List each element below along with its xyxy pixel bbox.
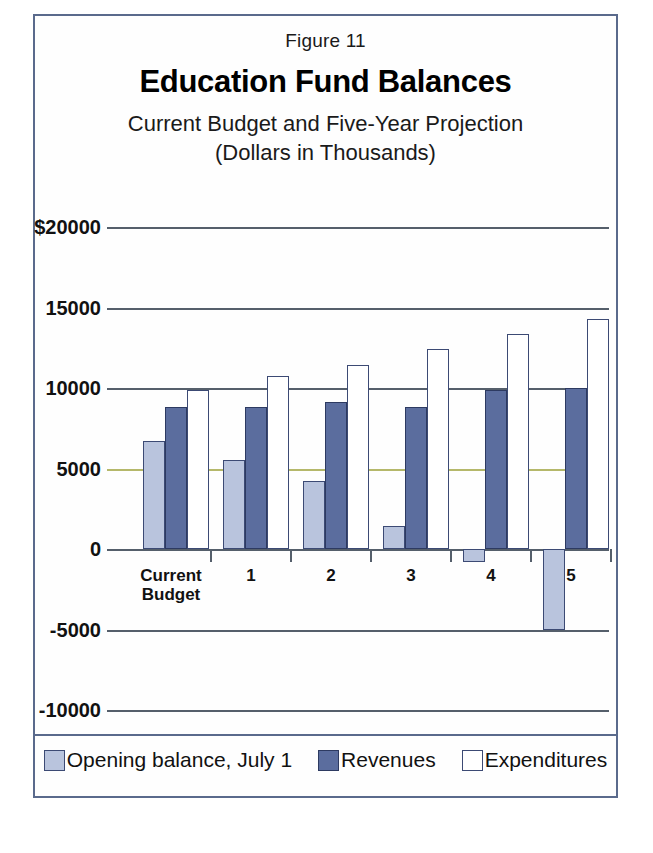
legend-swatch-opening-icon: [44, 750, 65, 771]
legend-item-expenditures[interactable]: Expenditures: [462, 748, 608, 772]
gridline--5000: [107, 630, 609, 632]
x-tick-1: [290, 549, 292, 562]
plot-area: -10000-5000050001000015000$20000 Current…: [35, 16, 616, 796]
y-tick-label--10000: -10000: [39, 699, 101, 722]
bar-revenues-1: [245, 407, 267, 549]
y-tick-label-15000: 15000: [45, 296, 101, 319]
x-tick-0: [210, 549, 212, 562]
x-tick-2: [370, 549, 372, 562]
x-category-label-1: 1: [211, 566, 291, 585]
y-tick-label-20000: $20000: [34, 216, 101, 239]
gridline--10000: [107, 710, 609, 712]
bar-expenditures-5: [587, 319, 609, 549]
legend-item-opening[interactable]: Opening balance, July 1: [44, 748, 292, 772]
bar-opening-2: [303, 481, 325, 549]
chart-legend: Opening balance, July 1RevenuesExpenditu…: [35, 748, 616, 772]
bar-revenues-2: [325, 402, 347, 549]
bar-expenditures-3: [427, 349, 449, 549]
bar-expenditures-4: [507, 334, 529, 549]
legend-swatch-revenues-icon: [318, 750, 339, 771]
gridline-15000: [107, 308, 609, 310]
y-tick-label-10000: 10000: [45, 377, 101, 400]
legend-swatch-expenditures-icon: [462, 750, 483, 771]
figure-frame: Figure 11 Education Fund Balances Curren…: [33, 14, 618, 798]
bar-expenditures-1: [267, 376, 289, 549]
gridline-0: [107, 549, 609, 551]
bar-opening-5: [543, 549, 565, 630]
x-category-label-4: 4: [451, 566, 531, 585]
x-tick-3: [450, 549, 452, 562]
y-tick-label--5000: -5000: [50, 618, 101, 641]
legend-label-opening: Opening balance, July 1: [67, 748, 292, 772]
x-category-label-0: CurrentBudget: [131, 566, 211, 604]
bar-expenditures-2: [347, 365, 369, 549]
bar-opening-0: [143, 441, 165, 549]
bar-opening-4: [463, 549, 485, 562]
x-tick-4: [530, 549, 532, 562]
x-category-label-2: 2: [291, 566, 371, 585]
bar-revenues-0: [165, 407, 187, 549]
bar-opening-3: [383, 526, 405, 549]
legend-item-revenues[interactable]: Revenues: [318, 748, 436, 772]
gridline-20000: [107, 227, 609, 229]
bar-revenues-3: [405, 407, 427, 549]
bar-opening-1: [223, 460, 245, 549]
y-tick-label-5000: 5000: [57, 457, 102, 480]
bar-revenues-5: [565, 388, 587, 549]
y-tick-label-0: 0: [90, 538, 101, 561]
x-category-label-3: 3: [371, 566, 451, 585]
legend-label-revenues: Revenues: [341, 748, 436, 772]
legend-label-expenditures: Expenditures: [485, 748, 608, 772]
bar-expenditures-0: [187, 390, 209, 549]
legend-divider: [35, 734, 616, 736]
bar-revenues-4: [485, 390, 507, 549]
x-tick-5: [610, 549, 612, 562]
